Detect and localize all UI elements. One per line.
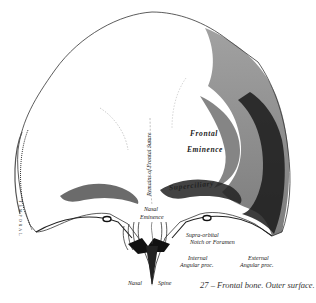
label-supraorbital-2: Notch or Foramen: [190, 239, 235, 245]
label-external-angular-1: External: [248, 255, 269, 261]
label-frontal: Frontal: [190, 130, 218, 138]
label-supraorbital-1: Supra-orbital: [186, 232, 219, 238]
label-nasal-spine-2: Spine: [158, 280, 171, 286]
anatomy-plate: Frontal Eminence Superciliary Remains of…: [0, 0, 316, 303]
label-external-angular-2: Angular proc.: [240, 262, 273, 268]
label-eminence: Eminence: [187, 146, 223, 154]
label-nasal-eminence-1: Nasal: [144, 206, 158, 212]
label-nasal-spine-1: Nasal: [128, 280, 142, 286]
label-frontal-suture: Remains of Frontal Suture: [146, 133, 152, 196]
nasal-spine: [146, 246, 158, 286]
supraorbital-foramen-left: [103, 217, 111, 222]
label-internal-angular-1: Internal: [188, 255, 207, 261]
supraorbital-foramen-right: [203, 216, 211, 221]
figure-caption: 27 – Frontal bone. Outer surface.: [200, 280, 315, 290]
label-nasal-eminence-2: Eminence: [140, 214, 164, 220]
label-internal-angular-2: Angular proc.: [180, 262, 213, 268]
label-temporal: TEMPORAL: [18, 200, 22, 238]
